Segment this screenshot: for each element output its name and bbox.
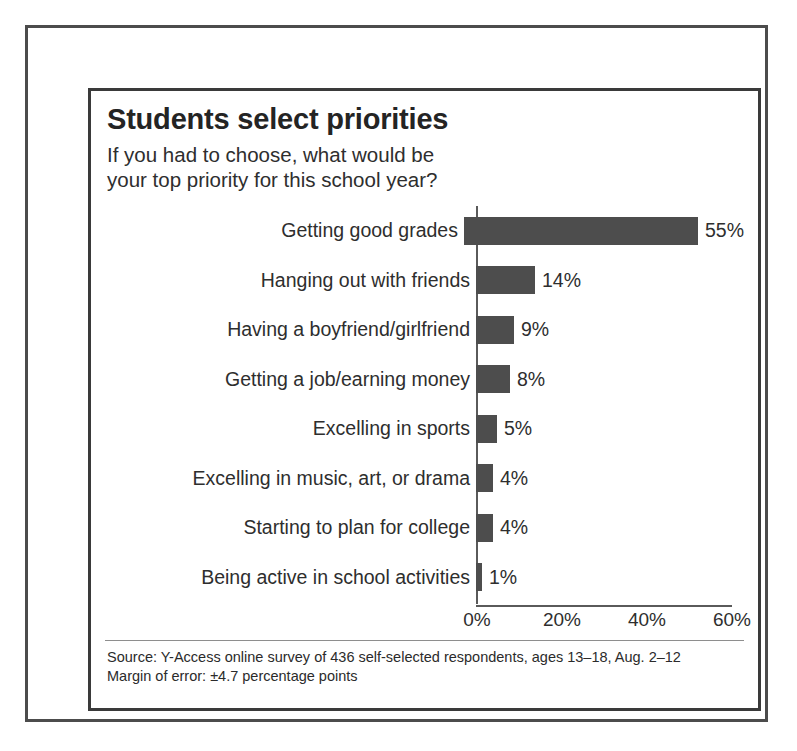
category-label: Having a boyfriend/girlfriend xyxy=(105,318,476,341)
x-tick-label: 20% xyxy=(543,609,581,631)
value-axis: 0% 20% 40% 60% xyxy=(105,605,744,635)
bar-row: Excelling in sports 5% xyxy=(105,404,744,454)
subtitle-line-1: If you had to choose, what would be xyxy=(107,142,744,167)
bar xyxy=(476,316,514,344)
bar-zone: 1% xyxy=(476,552,744,602)
category-label: Starting to plan for college xyxy=(105,516,476,539)
x-tick-label: 0% xyxy=(463,609,490,631)
source-note: Source: Y-Access online survey of 436 se… xyxy=(107,648,744,687)
value-label: 1% xyxy=(489,566,517,589)
bar xyxy=(476,514,493,542)
category-label: Hanging out with friends xyxy=(105,269,476,292)
bar-zone: 5% xyxy=(476,404,744,454)
category-label: Excelling in sports xyxy=(105,417,476,440)
value-label: 8% xyxy=(517,368,545,391)
value-label: 4% xyxy=(500,516,528,539)
page-title: Students select priorities xyxy=(107,104,744,136)
bar xyxy=(476,266,535,294)
bar xyxy=(476,464,493,492)
bar-row: Being active in school activities 1% xyxy=(105,552,744,602)
bar-row: Hanging out with friends 14% xyxy=(105,255,744,305)
bar xyxy=(476,365,510,393)
value-label: 4% xyxy=(500,467,528,490)
outer-border-frame: Students select priorities If you had to… xyxy=(25,25,768,722)
category-label: Getting a job/earning money xyxy=(105,368,476,391)
x-tick-label: 40% xyxy=(628,609,666,631)
bar-zone: 4% xyxy=(476,453,744,503)
bar-row: Getting a job/earning money 8% xyxy=(105,354,744,404)
value-label: 14% xyxy=(542,269,581,292)
bar-row: Starting to plan for college 4% xyxy=(105,503,744,553)
margin-of-error-line: Margin of error: ±4.7 percentage points xyxy=(107,667,744,686)
value-label: 5% xyxy=(504,417,532,440)
value-label: 9% xyxy=(521,318,549,341)
bar xyxy=(476,415,497,443)
bar xyxy=(464,217,698,245)
subtitle-line-2: your top priority for this school year? xyxy=(107,167,744,192)
category-label: Being active in school activities xyxy=(105,566,476,589)
chart-figure: Students select priorities If you had to… xyxy=(91,91,758,708)
value-axis-line xyxy=(476,605,732,607)
bar-zone: 14% xyxy=(476,255,744,305)
value-label: 55% xyxy=(705,219,744,242)
bar-zone: 9% xyxy=(476,305,744,355)
bar-zone: 55% xyxy=(464,206,744,256)
x-tick-label: 60% xyxy=(713,609,751,631)
bar-row: Having a boyfriend/girlfriend 9% xyxy=(105,305,744,355)
bar-zone: 8% xyxy=(476,354,744,404)
footer-divider xyxy=(105,640,744,641)
bar xyxy=(476,563,482,591)
bar-zone: 4% xyxy=(476,503,744,553)
bar-row: Excelling in music, art, or drama 4% xyxy=(105,453,744,503)
category-label: Getting good grades xyxy=(105,219,464,242)
source-line: Source: Y-Access online survey of 436 se… xyxy=(107,648,744,667)
plot-area: Getting good grades 55% Hanging out with… xyxy=(105,206,744,604)
inner-border-frame: Students select priorities If you had to… xyxy=(88,88,761,711)
chart-subtitle: If you had to choose, what would be your… xyxy=(105,142,744,192)
category-label: Excelling in music, art, or drama xyxy=(105,467,476,490)
bar-row: Getting good grades 55% xyxy=(105,206,744,256)
